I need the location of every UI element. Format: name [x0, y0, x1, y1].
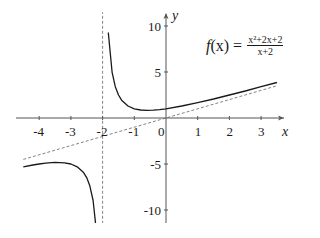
function-curve: [23, 162, 97, 238]
formula-denominator: x+2: [257, 46, 273, 57]
x-axis-label: x: [281, 124, 289, 139]
x-tick-label: -2: [97, 124, 108, 139]
formula-fraction: x²+2x+2 x+2: [247, 34, 283, 57]
x-tick-label: 0: [158, 124, 165, 139]
x-tick-label: -4: [33, 124, 44, 139]
y-axis-label: y: [170, 8, 179, 23]
x-tick-label: 3: [258, 124, 265, 139]
function-formula: f(x) = x²+2x+2 x+2: [206, 34, 283, 57]
x-tick-label: 2: [226, 124, 233, 139]
y-tick-label: 10: [148, 19, 161, 34]
formula-lhs: f(x) =: [206, 37, 242, 55]
y-tick-label: -5: [150, 157, 161, 172]
y-tick-label: 5: [155, 65, 162, 80]
x-tick-label: 1: [195, 124, 202, 139]
formula-numerator: x²+2x+2: [247, 34, 283, 46]
asymptote-line: [23, 86, 277, 160]
x-tick-label: -1: [128, 124, 139, 139]
y-tick-label: -10: [144, 203, 161, 218]
x-tick-label: -3: [65, 124, 76, 139]
